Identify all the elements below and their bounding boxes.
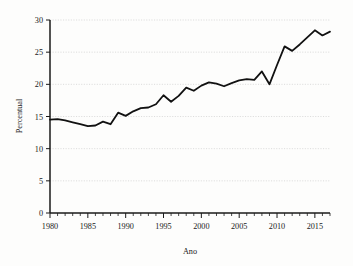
y-tick-label-10: 10 bbox=[35, 145, 43, 154]
x-tick-label-2010: 2010 bbox=[269, 222, 285, 231]
y-axis: 051015202530 bbox=[35, 16, 50, 218]
y-tick-label-0: 0 bbox=[39, 209, 43, 218]
y-axis-title: Percentual bbox=[15, 98, 24, 133]
x-axis-title: Ano bbox=[183, 247, 197, 256]
line-chart: 051015202530 198019851990199520002005201… bbox=[0, 0, 353, 266]
chart-container: 051015202530 198019851990199520002005201… bbox=[0, 0, 353, 266]
y-tick-label-20: 20 bbox=[35, 80, 43, 89]
gridlines bbox=[50, 20, 330, 181]
y-tick-label-5: 5 bbox=[39, 177, 43, 186]
x-tick-label-1980: 1980 bbox=[42, 222, 58, 231]
y-tick-label-30: 30 bbox=[35, 16, 43, 25]
data-series-line bbox=[50, 30, 330, 126]
x-tick-label-2005: 2005 bbox=[231, 222, 247, 231]
y-tick-label-25: 25 bbox=[35, 48, 43, 57]
x-tick-label-1985: 1985 bbox=[80, 222, 96, 231]
x-tick-label-1990: 1990 bbox=[117, 222, 133, 231]
x-axis: 19801985199019952000200520102015 bbox=[42, 213, 330, 231]
x-tick-label-2015: 2015 bbox=[307, 222, 323, 231]
x-tick-label-1995: 1995 bbox=[155, 222, 171, 231]
y-tick-label-15: 15 bbox=[35, 113, 43, 122]
x-tick-label-2000: 2000 bbox=[193, 222, 209, 231]
